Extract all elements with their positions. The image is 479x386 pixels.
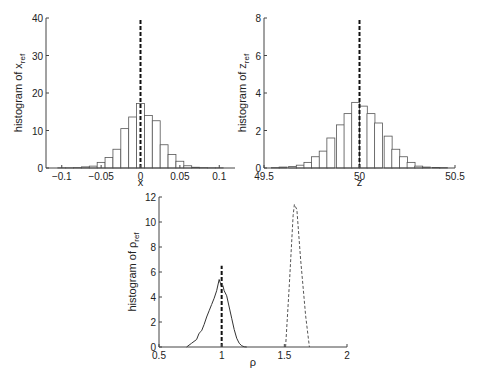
histogram-bar xyxy=(129,117,137,168)
x-axis-label: x xyxy=(138,176,144,188)
histogram-bar xyxy=(399,157,407,168)
figure: −0.1−0.0500.050.1010203040xhistogram of … xyxy=(0,0,479,386)
y-axis-label: histogram of zref xyxy=(236,53,251,132)
x-tick-label: 1 xyxy=(219,350,225,361)
x-tick-label: −0.1 xyxy=(52,171,72,182)
y-tick-label: 0 xyxy=(255,163,261,174)
y-tick-label: 6 xyxy=(150,267,156,278)
histogram-bar xyxy=(160,145,168,168)
histogram-bar xyxy=(312,157,320,168)
histogram-x-panel: −0.1−0.0500.050.1010203040xhistogram of … xyxy=(12,13,235,188)
y-tick-label: 20 xyxy=(32,88,44,99)
x-axis-label: z xyxy=(357,176,363,188)
y-tick-label: 8 xyxy=(150,242,156,253)
x-tick-label: 2 xyxy=(344,350,350,361)
x-tick-label: 50.5 xyxy=(445,171,465,182)
x-tick-label: −0.05 xyxy=(88,171,114,182)
y-tick-label: 40 xyxy=(32,13,44,24)
y-tick-label: 10 xyxy=(145,217,157,228)
density-curve-dashed xyxy=(286,205,310,348)
histogram-bar xyxy=(144,116,152,169)
histogram-z-panel: 49.55050.502468zhistogram of zref xyxy=(236,13,465,188)
x-axis-label: ρ xyxy=(250,356,256,368)
histogram-bar xyxy=(344,114,352,168)
y-tick-label: 0 xyxy=(150,342,156,353)
y-tick-label: 12 xyxy=(145,192,157,203)
histogram-bar xyxy=(168,155,176,169)
y-tick-label: 30 xyxy=(32,51,44,62)
histogram-bar xyxy=(304,162,312,168)
histogram-bar xyxy=(352,102,360,168)
y-tick-label: 10 xyxy=(32,126,44,137)
x-tick-label: 1.5 xyxy=(277,350,291,361)
histogram-rho-panel: 0.511.52024681012ρhistogram of ρref xyxy=(126,192,350,368)
histogram-bar xyxy=(407,162,415,168)
histogram-bar xyxy=(152,121,160,168)
histogram-bar xyxy=(392,149,400,168)
y-tick-label: 2 xyxy=(150,317,156,328)
y-tick-label: 6 xyxy=(255,51,261,62)
x-tick-label: 0.05 xyxy=(170,171,190,182)
y-tick-label: 0 xyxy=(37,163,43,174)
y-tick-label: 4 xyxy=(255,88,261,99)
histogram-bar xyxy=(336,125,344,168)
histogram-bar xyxy=(359,106,367,168)
histogram-bar xyxy=(367,114,375,168)
histogram-bar xyxy=(384,136,392,168)
histogram-bar xyxy=(319,151,327,168)
histogram-bar xyxy=(327,138,335,168)
y-tick-label: 4 xyxy=(150,292,156,303)
y-tick-label: 2 xyxy=(255,126,261,137)
density-curve-solid xyxy=(187,280,247,348)
histogram-bar xyxy=(121,129,129,168)
y-tick-label: 8 xyxy=(255,13,261,24)
histogram-bar xyxy=(113,149,121,168)
y-axis-label: histogram of ρref xyxy=(126,232,141,312)
histogram-bar xyxy=(375,123,383,168)
y-axis-label: histogram of xref xyxy=(12,53,27,132)
histogram-bar xyxy=(105,158,113,169)
x-tick-label: 0.1 xyxy=(212,171,226,182)
